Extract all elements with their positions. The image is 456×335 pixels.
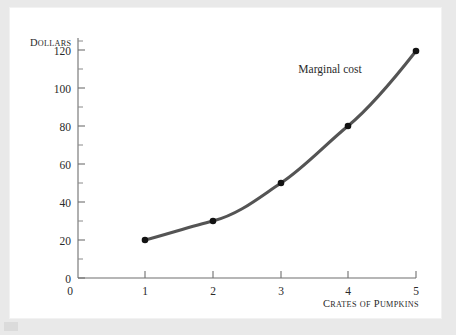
marginal-cost-line-chart: 0 20 40 60 80 100 120 0 1 2 3 4 5 DOLLAR…: [0, 0, 456, 335]
page-root: 0 20 40 60 80 100 120 0 1 2 3 4 5 DOLLAR…: [0, 0, 456, 335]
y-tick-label-20: 20: [60, 235, 72, 247]
y-tick-label-0: 0: [65, 273, 71, 285]
data-point-4: [345, 123, 352, 130]
data-point-1: [142, 237, 149, 244]
y-tick-label-60: 60: [60, 159, 72, 171]
y-axis-major-ticks: [78, 50, 85, 278]
x-tick-label-2: 2: [210, 285, 216, 297]
x-axis-title-cap-a: C: [323, 298, 330, 309]
y-tick-label-80: 80: [60, 121, 72, 133]
chart-svg: 0 20 40 60 80 100 120 0 1 2 3 4 5 DOLLAR…: [0, 0, 456, 335]
y-axis-title-cap: D: [30, 37, 38, 48]
data-point-5: [413, 48, 420, 55]
x-tick-label-1: 1: [142, 285, 148, 297]
x-tick-label-5: 5: [413, 285, 419, 297]
series-label-marginal-cost: Marginal cost: [298, 63, 362, 76]
x-axis-title: CRATESOFPUMPKINS: [323, 298, 419, 309]
x-axis-title-of: OF: [360, 300, 371, 309]
y-axis-minor-ticks: [78, 41, 83, 259]
y-tick-label-40: 40: [60, 197, 72, 209]
x-axis-title-rest-b: UMPKINS: [380, 300, 419, 309]
y-tick-labels: 0 20 40 60 80 100 120: [54, 45, 72, 285]
data-point-2: [210, 218, 217, 225]
x-axis-major-ticks: [145, 271, 416, 278]
axes-group: [78, 38, 416, 278]
x-tick-label-3: 3: [278, 285, 284, 297]
y-tick-label-100: 100: [54, 83, 72, 95]
x-axis-title-rest-a: RATES: [330, 300, 357, 309]
x-tick-label-0: 0: [67, 285, 73, 297]
x-tick-label-4: 4: [345, 285, 351, 297]
y-axis-title: DOLLARS: [30, 37, 72, 48]
data-point-3: [278, 180, 285, 187]
marginal-cost-curve: [145, 51, 416, 240]
data-point-markers: [142, 48, 420, 244]
y-axis-title-rest: OLLARS: [38, 39, 72, 48]
x-tick-labels: 0 1 2 3 4 5: [67, 285, 419, 297]
